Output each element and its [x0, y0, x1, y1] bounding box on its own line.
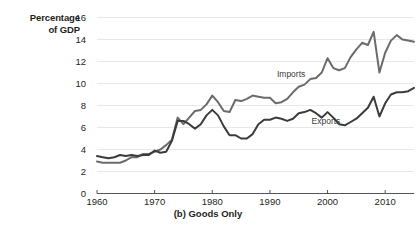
x-axis-tick-label: 2000 — [308, 197, 348, 207]
figure-caption: (b) Goods Only — [0, 208, 416, 219]
series-label-exports: Exports — [312, 116, 341, 126]
x-axis-tick-label: 1960 — [77, 197, 117, 207]
series-line-imports — [97, 32, 414, 163]
y-axis-tick-label: 6 — [66, 123, 86, 133]
series-line-exports — [97, 88, 414, 158]
y-axis-tick-label: 4 — [66, 145, 86, 155]
y-axis-tick-label: 8 — [66, 101, 86, 111]
series-label-imports: Imports — [277, 69, 305, 79]
x-axis-tick-label: 1990 — [250, 197, 290, 207]
y-axis-tick-label: 16 — [66, 13, 86, 23]
x-axis-tick-label: 1980 — [192, 197, 232, 207]
gridlines — [97, 18, 414, 172]
chart-figure: Percentage of GDP 0246810121416 19601970… — [0, 0, 416, 230]
y-axis-tick-label: 14 — [66, 35, 86, 45]
x-axis-tick-label: 1970 — [135, 197, 175, 207]
y-axis-tick-label: 12 — [66, 57, 86, 67]
y-axis-tick-label: 10 — [66, 79, 86, 89]
data-series-group — [97, 32, 414, 163]
x-axis-tick-label: 2010 — [365, 197, 405, 207]
y-axis-tick-label: 2 — [66, 167, 86, 177]
